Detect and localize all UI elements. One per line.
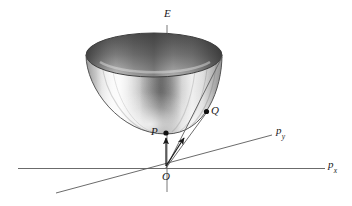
momentum-arrows bbox=[166, 138, 184, 166]
point-marker-P bbox=[163, 130, 168, 135]
energy-axis-label: E bbox=[164, 8, 171, 19]
arrow-to-Q bbox=[166, 138, 184, 166]
point-marker-Q bbox=[204, 109, 209, 114]
px-axis-label: px bbox=[328, 159, 337, 173]
point-label-P: P bbox=[151, 126, 158, 137]
py-axis-label: py bbox=[276, 125, 285, 139]
point-label-Q: Q bbox=[211, 105, 219, 116]
origin-label: O bbox=[162, 171, 170, 182]
paraboloid-surface bbox=[80, 22, 228, 140]
physics-diagram-paraboloid: E px py O P Q bbox=[0, 0, 352, 206]
diagram-canvas bbox=[0, 0, 352, 206]
py-axis-line bbox=[56, 135, 272, 193]
